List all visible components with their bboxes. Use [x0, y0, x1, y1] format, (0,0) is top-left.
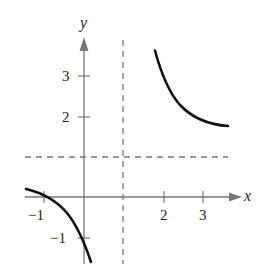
curve-left-branch [26, 189, 91, 262]
y-tick-label-3: 3 [62, 68, 70, 84]
y-tick-label-2: 2 [62, 109, 70, 125]
y-axis-arrow-icon [80, 37, 89, 51]
x-axis-label: x [243, 187, 251, 204]
x-tick-label-2: 2 [160, 207, 168, 223]
y-tick-label-neg1: −1 [50, 230, 66, 246]
hyperbola-graph: y x −1 2 3 3 2 −1 [0, 0, 258, 268]
curve-right-branch [155, 51, 228, 127]
x-tick-label-neg1: −1 [28, 207, 44, 223]
x-tick-label-3: 3 [199, 207, 207, 223]
y-axis-label: y [78, 14, 88, 32]
x-axis-arrow-icon [229, 193, 242, 202]
